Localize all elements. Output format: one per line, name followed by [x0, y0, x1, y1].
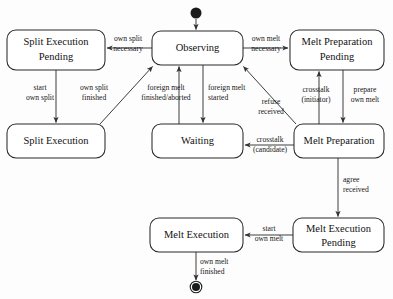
label-prepare-own-melt-line1: prepare — [354, 85, 377, 94]
label-start-own-split-line1: start — [33, 83, 47, 92]
state-label-melt-execution-pending-line2: Pending — [321, 237, 356, 248]
label-own-melt-necessary-line1: own melt — [252, 34, 281, 43]
state-label-melt-preparation-pending-line1: Melt Preparation — [302, 36, 374, 47]
state-label-split-execution-pending-line2: Pending — [39, 51, 74, 62]
state-label-split-execution-pending-line1: Split Execution — [23, 36, 89, 47]
label-foreign-melt-finished-aborted-line1: foreign melt — [147, 83, 185, 92]
state-label-melt-preparation: Melt Preparation — [304, 135, 376, 146]
state-label-melt-execution-pending-line1: Melt Execution — [306, 223, 372, 234]
label-prepare-own-melt-line2: own melt — [351, 95, 380, 104]
state-diagram-svg: Split Execution Pending Observing Melt P… — [0, 0, 393, 299]
label-refuse-received-line1: refuse — [262, 97, 281, 106]
label-own-melt-necessary-line2: necessary — [251, 44, 281, 53]
state-melt-execution[interactable]: Melt Execution — [150, 218, 243, 252]
state-label-split-execution: Split Execution — [23, 135, 89, 146]
final-state-node-inner — [192, 283, 200, 291]
state-melt-preparation-pending[interactable]: Melt Preparation Pending — [290, 30, 384, 70]
label-own-split-necessary-line1: own split — [114, 34, 143, 43]
label-start-own-melt-line1: start — [262, 224, 276, 233]
label-crosstalk-initiator-line1: crosstalk — [303, 85, 330, 94]
label-own-split-finished-line1: own split — [80, 83, 109, 92]
label-start-own-split-line2: own split — [26, 93, 55, 102]
label-agree-received-line2: received — [343, 185, 369, 194]
label-crosstalk-initiator-line2: (initiator) — [301, 95, 331, 104]
label-foreign-melt-started-line2: started — [208, 93, 228, 102]
state-observing[interactable]: Observing — [152, 31, 243, 65]
label-own-split-finished-line2: finished — [82, 93, 107, 102]
label-own-split-necessary-line2: necessary — [113, 44, 143, 53]
state-waiting[interactable]: Waiting — [152, 124, 243, 158]
state-label-observing: Observing — [176, 42, 220, 53]
state-diagram-canvas: Split Execution Pending Observing Melt P… — [0, 0, 393, 299]
initial-state-node — [191, 8, 202, 19]
label-own-melt-finished-line2: finished — [200, 267, 225, 276]
label-own-melt-finished-line1: own melt — [200, 257, 229, 266]
label-refuse-received-line2: received — [258, 107, 284, 116]
state-split-execution[interactable]: Split Execution — [7, 124, 105, 158]
label-agree-received-line1: agree — [343, 175, 360, 184]
state-label-melt-execution: Melt Execution — [164, 229, 230, 240]
label-crosstalk-candidate-line1: crosstalk — [257, 135, 284, 144]
state-split-execution-pending[interactable]: Split Execution Pending — [7, 30, 105, 70]
state-melt-execution-pending[interactable]: Melt Execution Pending — [293, 218, 384, 252]
label-crosstalk-candidate-line2: (candidate) — [253, 145, 288, 154]
label-foreign-melt-started-line1: foreign melt — [208, 83, 246, 92]
state-label-melt-preparation-pending-line2: Pending — [320, 51, 355, 62]
state-melt-preparation[interactable]: Melt Preparation — [294, 124, 384, 158]
label-start-own-melt-line2: own melt — [255, 234, 284, 243]
states-layer: Split Execution Pending Observing Melt P… — [7, 30, 384, 252]
label-foreign-melt-finished-aborted-line2: finished/aborted — [141, 93, 191, 102]
state-label-waiting: Waiting — [181, 135, 215, 146]
